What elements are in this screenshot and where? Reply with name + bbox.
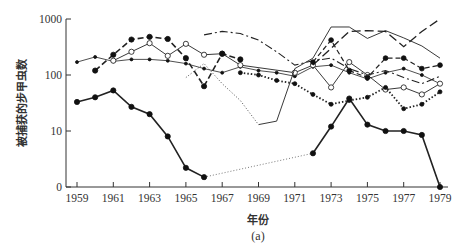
data-point <box>384 71 387 74</box>
data-point <box>147 34 152 39</box>
data-point <box>438 90 442 94</box>
data-point <box>437 184 442 189</box>
data-point <box>402 107 406 111</box>
x-ticks: 1959196119631965196719691971197319751977… <box>66 182 452 204</box>
line-chart: 1000100100 19591961196319651967196919711… <box>0 0 470 246</box>
data-point <box>111 52 116 57</box>
data-point <box>165 36 170 41</box>
x-tick-label: 1973 <box>320 192 343 204</box>
data-point <box>148 58 151 61</box>
data-point <box>183 56 188 61</box>
y-tick-label: 10 <box>51 125 63 137</box>
x-axis-title: 年份 <box>247 213 270 227</box>
data-point <box>238 63 243 68</box>
data-point <box>94 55 97 58</box>
data-point <box>420 102 424 106</box>
data-point <box>347 99 351 103</box>
data-point <box>329 85 334 90</box>
data-point <box>384 85 388 89</box>
x-tick-label: 1979 <box>429 192 452 204</box>
data-point <box>166 59 169 62</box>
y-tick-label: 1000 <box>39 13 62 25</box>
data-point <box>93 68 98 73</box>
data-point <box>347 59 352 64</box>
data-point <box>183 41 188 46</box>
x-tick-label: 1971 <box>283 192 306 204</box>
x-tick-label: 1963 <box>138 192 161 204</box>
data-point <box>183 165 188 170</box>
data-point <box>383 128 388 133</box>
x-tick-label: 1959 <box>66 192 89 204</box>
data-point <box>220 51 225 56</box>
data-point <box>275 78 279 82</box>
data-point <box>111 58 116 63</box>
data-point <box>420 74 423 77</box>
series-line <box>74 88 442 190</box>
data-point <box>238 71 242 75</box>
data-point <box>201 84 206 89</box>
x-tick-label: 1975 <box>356 192 379 204</box>
data-point <box>311 92 315 96</box>
data-point <box>74 99 79 104</box>
y-tick-label: 100 <box>45 69 63 81</box>
data-point <box>419 66 424 71</box>
data-point <box>93 95 98 100</box>
data-point <box>111 88 116 93</box>
data-point <box>438 63 443 68</box>
x-tick-label: 1967 <box>211 192 234 204</box>
data-point <box>310 151 315 156</box>
data-point <box>130 58 133 61</box>
data-point <box>365 95 369 99</box>
y-tick-label: 0 <box>56 181 62 193</box>
data-point <box>419 132 424 137</box>
data-point <box>165 134 170 139</box>
data-point <box>329 38 334 43</box>
data-point <box>329 102 333 106</box>
data-point <box>401 56 406 61</box>
x-tick-label: 1961 <box>102 192 125 204</box>
data-point <box>184 62 187 65</box>
x-tick-label: 1977 <box>392 192 415 204</box>
series-lines <box>74 19 442 190</box>
data-point <box>347 68 352 73</box>
series-line <box>259 27 441 125</box>
data-point <box>221 71 224 74</box>
data-point <box>383 56 388 61</box>
data-point <box>238 57 243 62</box>
data-point <box>293 82 297 86</box>
data-point <box>147 41 152 46</box>
series-line <box>111 41 443 97</box>
data-point <box>257 73 261 77</box>
data-point <box>165 53 170 58</box>
data-point <box>129 49 134 54</box>
data-point <box>201 175 206 180</box>
y-axis-title: 被捕获的步甲虫数 <box>15 58 29 147</box>
data-point <box>365 75 370 80</box>
x-tick-label: 1965 <box>174 192 197 204</box>
data-point <box>311 60 316 65</box>
data-point <box>437 81 442 86</box>
figure-caption: (a) <box>251 229 264 243</box>
data-point <box>257 69 260 72</box>
chart-figure: 1000100100 19591961196319651967196919711… <box>0 0 470 246</box>
data-point <box>401 85 406 90</box>
x-tick-label: 1969 <box>247 192 270 204</box>
data-point <box>129 37 134 42</box>
data-point <box>419 92 424 97</box>
data-point <box>330 64 333 67</box>
data-point <box>402 67 405 70</box>
data-point <box>147 112 152 117</box>
data-point <box>203 67 206 70</box>
data-point <box>401 128 406 133</box>
data-point <box>275 71 278 74</box>
data-point <box>129 104 134 109</box>
data-point <box>329 124 334 129</box>
data-point <box>76 61 79 64</box>
data-point <box>365 122 370 127</box>
data-point <box>201 52 206 57</box>
